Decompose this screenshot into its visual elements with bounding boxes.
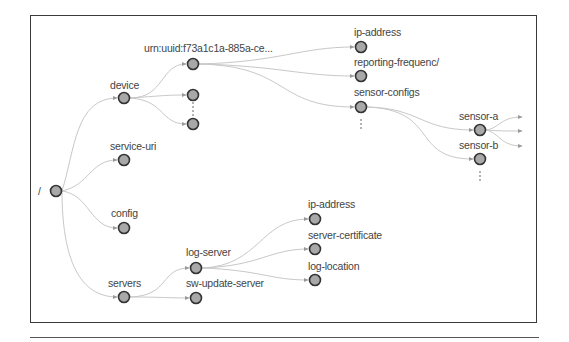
node-reporting-frequency[interactable]: reporting-frequenc/ xyxy=(354,56,439,82)
node-circle[interactable] xyxy=(475,125,486,136)
node-label: service-uri xyxy=(110,140,156,152)
node-label: sensor-configs xyxy=(354,86,419,98)
node-label: config xyxy=(111,207,138,219)
node-device-child-3[interactable] xyxy=(188,119,199,130)
node-label: server-certificate xyxy=(308,229,382,241)
node-circle[interactable] xyxy=(191,263,202,274)
ellipsis-sensor-b-siblings xyxy=(479,171,481,181)
node-config[interactable]: config xyxy=(111,207,138,234)
ellipsis-sensor-configs-siblings xyxy=(360,119,362,129)
node-label: reporting-frequenc/ xyxy=(354,56,439,68)
node-circle[interactable] xyxy=(119,223,130,234)
node-circle[interactable] xyxy=(188,59,199,70)
tree-diagram: / device service-uri config servers urn:… xyxy=(0,0,569,342)
node-label: servers xyxy=(108,277,141,289)
node-circle[interactable] xyxy=(119,93,130,104)
node-label: sensor-a xyxy=(459,110,499,122)
node-sensor-a[interactable]: sensor-a xyxy=(459,110,499,136)
node-ip-address[interactable]: ip-address xyxy=(354,26,401,53)
node-circle[interactable] xyxy=(51,186,62,197)
node-label: log-location xyxy=(308,260,360,272)
node-circle[interactable] xyxy=(356,42,367,53)
node-label: ip-address xyxy=(354,26,401,38)
node-server-certificate[interactable]: server-certificate xyxy=(308,229,382,255)
node-sw-update-server[interactable]: sw-update-server xyxy=(186,277,265,304)
node-label: sw-update-server xyxy=(186,277,265,289)
ellipsis-device-children xyxy=(192,102,194,116)
node-circle[interactable] xyxy=(356,71,367,82)
node-circle[interactable] xyxy=(188,119,199,130)
node-label: ip-address xyxy=(308,198,355,210)
node-circle[interactable] xyxy=(310,275,321,286)
node-label: sensor-b xyxy=(459,139,499,151)
node-circle[interactable] xyxy=(356,102,367,113)
node-label: / xyxy=(38,185,41,197)
node-circle[interactable] xyxy=(119,155,130,166)
node-device-child-2[interactable] xyxy=(188,90,199,101)
node-circle[interactable] xyxy=(119,292,130,303)
node-service-uri[interactable]: service-uri xyxy=(110,140,156,166)
node-servers[interactable]: servers xyxy=(108,277,141,303)
node-circle[interactable] xyxy=(475,154,486,165)
node-sensor-b[interactable]: sensor-b xyxy=(459,139,499,165)
node-label: device xyxy=(110,79,140,91)
node-label: log-server xyxy=(186,246,231,258)
node-log-location[interactable]: log-location xyxy=(308,260,360,286)
node-circle[interactable] xyxy=(188,90,199,101)
node-circle[interactable] xyxy=(310,214,321,225)
node-root[interactable]: / xyxy=(38,185,62,197)
node-label: urn:uuid:f73a1c1a-885a-ce... xyxy=(144,42,273,54)
node-device[interactable]: device xyxy=(110,79,140,104)
node-device-uuid[interactable]: urn:uuid:f73a1c1a-885a-ce... xyxy=(144,42,273,70)
node-circle[interactable] xyxy=(191,293,202,304)
node-log-ip-address[interactable]: ip-address xyxy=(308,198,355,225)
node-circle[interactable] xyxy=(310,244,321,255)
